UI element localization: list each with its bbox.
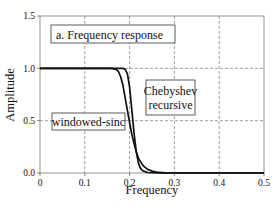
chart-title: a. Frequency response <box>56 28 163 42</box>
x-tick-label: 0.4 <box>213 178 225 188</box>
windowed-sinc-label: windowed-sinc <box>52 115 125 129</box>
frequency-response-chart: 00.10.20.30.40.50.00.51.01.5 a. Frequenc… <box>0 0 277 212</box>
chebyshev-label-box: Chebyshev recursive <box>144 80 197 115</box>
windowed-sinc-label-box: windowed-sinc <box>52 113 125 130</box>
x-tick-label: 0.1 <box>79 178 91 188</box>
y-tick-label: 0.5 <box>23 116 35 126</box>
y-tick-label: 0.0 <box>23 168 35 178</box>
x-axis-label: Frequency <box>126 183 180 197</box>
chebyshev-label-line2: recursive <box>149 98 193 112</box>
title-box: a. Frequency response <box>51 25 175 43</box>
chebyshev-label-line1: Chebyshev <box>144 84 197 98</box>
y-axis-label: Amplitude <box>3 68 17 122</box>
x-tick-label: 0.5 <box>258 178 270 188</box>
x-tick-label: 0 <box>38 178 43 188</box>
y-tick-label: 1.5 <box>23 11 35 21</box>
y-tick-label: 1.0 <box>23 64 35 74</box>
